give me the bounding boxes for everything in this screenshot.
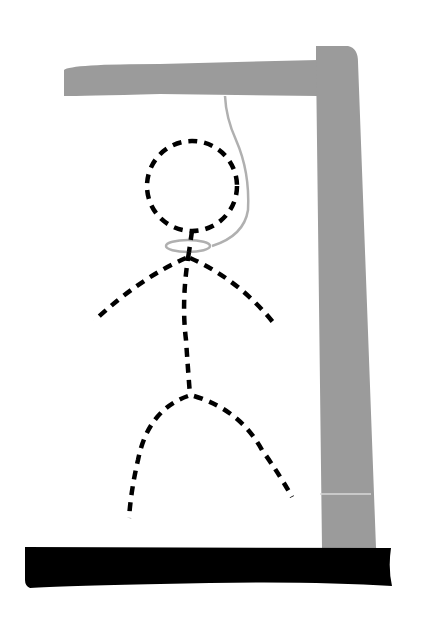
figure-right-arm [190, 258, 276, 326]
gallows-beam [64, 60, 318, 96]
figure-right-leg [194, 396, 292, 497]
figure-neck [189, 231, 192, 252]
hangman-drawing [0, 0, 422, 630]
figure-head [147, 141, 237, 231]
figure-body [184, 252, 190, 395]
figure-left-arm [94, 258, 186, 321]
stick-figure [94, 141, 292, 518]
gallows-base [25, 547, 392, 588]
rope [212, 96, 248, 246]
gallows-post [316, 46, 376, 548]
figure-left-leg [129, 396, 188, 518]
hangman-scene: Hangman [0, 0, 422, 630]
